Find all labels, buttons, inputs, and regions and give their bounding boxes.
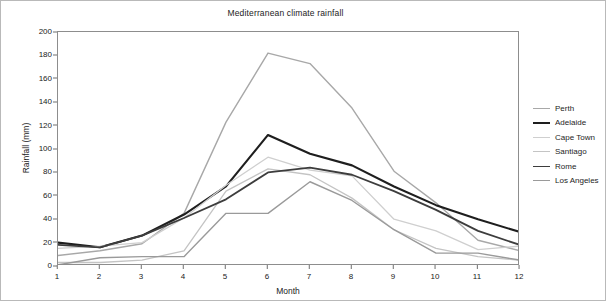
series-line: [58, 182, 518, 264]
legend-item[interactable]: Rome: [533, 159, 606, 174]
y-axis-tick: 20: [43, 237, 57, 246]
chart-figure: Mediterranean climate rainfall Rainfall …: [0, 0, 606, 301]
y-axis-tick: 200: [39, 27, 57, 36]
legend-label: Adelaide: [555, 118, 586, 127]
y-axis-tick: 80: [43, 167, 57, 176]
legend-color-swatch: [533, 122, 550, 124]
y-axis-tick: 40: [43, 214, 57, 223]
x-axis-tick: 6: [265, 272, 269, 281]
y-axis-tick: 180: [39, 50, 57, 59]
y-axis-tick: 140: [39, 97, 57, 106]
y-axis-tick: 0: [48, 261, 57, 270]
y-axis: 020406080100120140160180200: [1, 31, 57, 265]
x-axis-tick: 4: [181, 272, 185, 281]
legend-color-swatch: [533, 180, 550, 181]
series-line: [58, 53, 518, 255]
legend-item[interactable]: Los Angeles: [533, 174, 606, 189]
legend-label: Cape Town: [555, 133, 595, 142]
y-axis-tick: 60: [43, 190, 57, 199]
x-axis-tick: 10: [431, 272, 440, 281]
x-axis-tick: 9: [391, 272, 395, 281]
series-layer: [58, 32, 518, 264]
y-axis-tick: 120: [39, 120, 57, 129]
plot-inner: [58, 32, 518, 264]
chart-legend: PerthAdelaideCape TownSantiagoRomeLos An…: [533, 101, 606, 188]
legend-label: Santiago: [555, 147, 587, 156]
plot-area: [57, 31, 519, 265]
x-axis-tick: 3: [139, 272, 143, 281]
x-axis-tick: 1: [55, 272, 59, 281]
legend-item[interactable]: Cape Town: [533, 130, 606, 145]
legend-color-swatch: [533, 151, 550, 152]
legend-item[interactable]: Adelaide: [533, 116, 606, 131]
legend-label: Rome: [555, 162, 576, 171]
series-line: [58, 168, 518, 248]
series-line: [58, 135, 518, 247]
legend-color-swatch: [533, 166, 550, 167]
x-axis-tick: 5: [223, 272, 227, 281]
legend-label: Los Angeles: [555, 176, 599, 185]
legend-color-swatch: [533, 108, 550, 109]
x-axis-tick: 11: [473, 272, 481, 281]
x-axis-tick: 8: [349, 272, 353, 281]
x-axis-tick: 7: [307, 272, 311, 281]
legend-item[interactable]: Santiago: [533, 145, 606, 160]
y-axis-tick: 160: [39, 73, 57, 82]
legend-item[interactable]: Perth: [533, 101, 606, 116]
x-axis-label: Month: [57, 286, 519, 296]
x-axis: Month 123456789101112: [57, 265, 519, 295]
y-axis-tick: 100: [39, 144, 57, 153]
legend-color-swatch: [533, 137, 550, 138]
chart-title: Mediterranean climate rainfall: [1, 8, 605, 18]
x-axis-tick: 12: [515, 272, 524, 281]
legend-label: Perth: [555, 104, 574, 113]
x-axis-tick: 2: [97, 272, 101, 281]
